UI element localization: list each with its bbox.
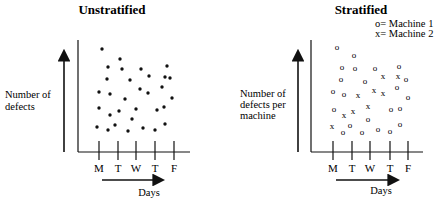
left-xlabel: Days (138, 187, 160, 198)
data-dot (165, 64, 168, 67)
data-dot (106, 65, 109, 68)
svg-text:machine: machine (240, 110, 276, 121)
data-dot (130, 117, 133, 120)
right-ylabel: Number of defects per machine (240, 88, 286, 121)
machine1-marker: o (398, 119, 403, 129)
machine2-marker: x (381, 88, 386, 98)
machine1-marker: o (348, 120, 353, 130)
data-dot (160, 85, 163, 88)
machine1-marker: o (366, 114, 371, 124)
right-tick-labels: M T W T F (328, 162, 411, 174)
data-dot (141, 126, 144, 129)
machine1-marker: o (406, 92, 411, 102)
machine2-marker: x (330, 121, 335, 131)
diagram-canvas: Unstratified Number of defects M T W T F… (0, 0, 437, 204)
svg-text:T: T (349, 162, 356, 174)
left-ylabel: Number of defects (5, 89, 51, 112)
unstratified-panel: Unstratified Number of defects M T W T F… (5, 2, 190, 198)
data-dot (153, 128, 156, 131)
data-dot (170, 96, 173, 99)
svg-text:M: M (94, 162, 104, 174)
data-dot (139, 67, 142, 70)
machine1-marker: o (335, 42, 340, 52)
unstratified-title: Unstratified (78, 2, 146, 17)
data-dot (117, 109, 120, 112)
machine1-marker: o (388, 126, 393, 136)
data-dot (134, 107, 137, 110)
data-dot (113, 123, 116, 126)
machine2-marker: x (366, 101, 371, 111)
svg-text:x= Machine 2: x= Machine 2 (375, 28, 433, 39)
data-dot (100, 47, 103, 50)
machine1-marker: o (339, 74, 344, 84)
data-dot (163, 75, 166, 78)
machine1-marker: o (360, 127, 365, 137)
svg-text:F: F (171, 162, 177, 174)
machine1-marker: o (342, 89, 347, 99)
data-dot (123, 97, 126, 100)
data-dot (146, 91, 149, 94)
right-ticks (333, 141, 408, 160)
data-dot (155, 108, 158, 111)
machine1-marker: o (363, 76, 368, 86)
left-dots (95, 47, 173, 132)
svg-text:M: M (328, 162, 338, 174)
data-dot (147, 74, 150, 77)
data-dot (168, 76, 171, 79)
stratified-title: Stratified (335, 2, 388, 17)
svg-text:T: T (387, 162, 394, 174)
data-dot (106, 128, 109, 131)
legend: o= Machine 1 x= Machine 2 (375, 18, 433, 39)
machine2-marker: x (351, 106, 356, 116)
machine1-marker: o (397, 61, 402, 71)
machine1-marker: o (332, 104, 337, 114)
data-dot (97, 106, 100, 109)
machine2-marker: x (396, 71, 401, 81)
data-dot (163, 122, 166, 125)
machine1-marker: o (376, 124, 381, 134)
data-dot (128, 78, 131, 81)
data-dot (95, 125, 98, 128)
stratified-panel: Stratified o= Machine 1 x= Machine 2 Num… (240, 2, 433, 196)
data-dot (118, 57, 121, 60)
svg-text:T: T (152, 162, 159, 174)
svg-text:defects: defects (5, 101, 35, 112)
machine1-marker: o (341, 127, 346, 137)
svg-text:F: F (405, 162, 411, 174)
data-dot (97, 90, 100, 93)
data-dot (120, 67, 123, 70)
machine2-marker: x (342, 110, 347, 120)
machine1-marker: o (395, 82, 400, 92)
svg-text:W: W (365, 162, 376, 174)
machine1-marker: o (331, 86, 336, 96)
data-dot (126, 129, 129, 132)
machine1-marker: o (373, 63, 378, 73)
machine2-marker: x (381, 71, 386, 81)
svg-text:T: T (115, 162, 122, 174)
data-dot (108, 113, 111, 116)
left-tick-labels: M T W T F (94, 162, 177, 174)
svg-text:W: W (131, 162, 142, 174)
data-dot (105, 77, 108, 80)
left-ticks (99, 141, 174, 160)
data-dot (162, 105, 165, 108)
machine1-marker: o (352, 50, 357, 60)
machine2-marker: x (372, 85, 377, 95)
machine1-marker: o (353, 63, 358, 73)
machine1-marker: o (398, 103, 403, 113)
svg-text:Number of: Number of (5, 89, 51, 100)
right-xlabel: Days (370, 185, 392, 196)
machine2-marker: x (356, 90, 361, 100)
right-markers: oooooooooooooooooooooooxxxxxxxxx (330, 42, 411, 137)
svg-text:Number of: Number of (240, 88, 286, 99)
machine1-marker: o (389, 104, 394, 114)
svg-text:defects per: defects per (240, 99, 286, 110)
machine1-marker: o (340, 62, 345, 72)
data-dot (138, 87, 141, 90)
machine1-marker: o (404, 74, 409, 84)
data-dot (108, 92, 111, 95)
